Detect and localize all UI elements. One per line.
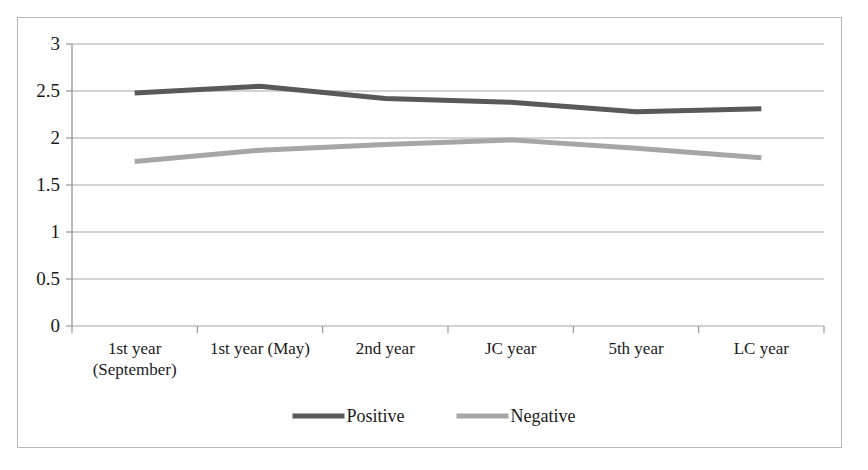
y-axis-tick-label: 3 xyxy=(0,34,60,53)
gridlines-group xyxy=(66,44,824,326)
series-lines-group xyxy=(135,86,762,161)
x-axis-tick-label-line: LC year xyxy=(699,338,824,359)
x-axis-tick-label-line: 5th year xyxy=(573,338,698,359)
x-axis-tick-label: JC year xyxy=(448,338,573,359)
x-axis-tick-label-line: JC year xyxy=(448,338,573,359)
series-line-positive xyxy=(135,86,762,111)
x-axis-tick-label-line: 1st year xyxy=(72,338,197,359)
y-axis-tick-label: 2 xyxy=(0,128,60,147)
x-axis-tick-label-line: (September) xyxy=(72,359,197,380)
x-axis-tick-label: 1st year (May) xyxy=(197,338,322,359)
series-line-negative xyxy=(135,140,762,162)
x-axis-tick-label-line: 1st year (May) xyxy=(197,338,322,359)
x-axis-tick-label: LC year xyxy=(699,338,824,359)
chart-figure: 00.511.522.53 1st year(September)1st yea… xyxy=(0,0,868,470)
x-axis-ticks-group xyxy=(72,326,824,333)
line-chart-plot xyxy=(0,0,868,470)
x-axis-tick-label: 1st year(September) xyxy=(72,338,197,380)
legend-label-negative: Negative xyxy=(511,407,576,425)
y-axis-tick-label: 0 xyxy=(0,316,60,335)
y-axis-tick-label: 0.5 xyxy=(0,269,60,288)
x-axis-tick-label: 2nd year xyxy=(323,338,448,359)
x-axis-tick-label-line: 2nd year xyxy=(323,338,448,359)
y-axis-tick-label: 1.5 xyxy=(0,175,60,194)
y-axis-tick-label: 1 xyxy=(0,222,60,241)
legend-label-positive: Positive xyxy=(347,407,405,425)
y-axis-tick-label: 2.5 xyxy=(0,81,60,100)
x-axis-tick-label: 5th year xyxy=(573,338,698,359)
